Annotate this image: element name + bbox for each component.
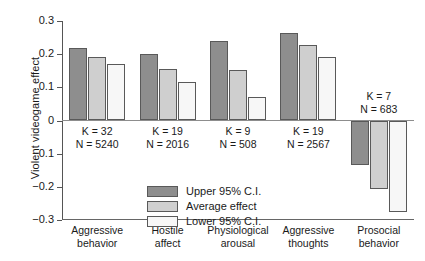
category-label-aggressive-thoughts: Aggressivethoughts xyxy=(273,224,343,249)
bar-prosocial-behavior-avg[interactable] xyxy=(370,121,388,190)
group-annotation-prosocial-behavior: K = 7N = 683 xyxy=(344,90,414,116)
y-tick-label: 0.3 xyxy=(39,14,54,26)
y-tick-label: 0.1 xyxy=(39,80,54,92)
group-annotation-hostile-affect: K = 19N = 2016 xyxy=(132,125,202,151)
annotation-n: N = 2567 xyxy=(273,138,343,151)
annotation-k: K = 9 xyxy=(203,125,273,138)
bar-chart: Violent videogame effect 0.30.20.10−0.1−… xyxy=(0,0,425,261)
legend-label-average: Average effect xyxy=(186,200,257,212)
group-annotation-aggressive-thoughts: K = 19N = 2567 xyxy=(273,125,343,151)
annotation-n: N = 5240 xyxy=(62,138,132,151)
bar-aggressive-thoughts-low[interactable] xyxy=(318,57,336,120)
bar-aggressive-behavior-up[interactable] xyxy=(69,48,87,121)
category-label-line2: affect xyxy=(132,237,202,250)
legend: Upper 95% C.I. Average effect Lower 95% … xyxy=(147,184,261,229)
group-annotation-physiological-arousal: K = 9N = 508 xyxy=(203,125,273,151)
bar-aggressive-behavior-avg[interactable] xyxy=(88,57,106,121)
category-label-line2: behavior xyxy=(344,237,414,250)
bar-group-aggressive-thoughts: K = 19N = 2567Aggressivethoughts xyxy=(273,21,343,220)
group-annotation-aggressive-behavior: K = 32N = 5240 xyxy=(62,125,132,151)
bar-aggressive-thoughts-up[interactable] xyxy=(280,33,298,121)
bar-group-aggressive-behavior: K = 32N = 5240Aggressivebehavior xyxy=(62,21,132,220)
annotation-k: K = 19 xyxy=(273,125,343,138)
legend-item-upper: Upper 95% C.I. xyxy=(147,184,261,198)
annotation-k: K = 19 xyxy=(132,125,202,138)
legend-swatch-average-icon xyxy=(147,201,178,212)
bars xyxy=(273,21,343,220)
bar-hostile-affect-low[interactable] xyxy=(178,82,196,120)
legend-swatch-lower-icon xyxy=(147,216,178,227)
y-tick-label: −0.1 xyxy=(32,147,54,159)
bar-hostile-affect-avg[interactable] xyxy=(159,69,177,120)
legend-item-lower: Lower 95% C.I. xyxy=(147,214,261,228)
y-tick-label: −0.3 xyxy=(32,213,54,225)
annotation-k: K = 7 xyxy=(344,90,414,103)
y-tick-label: 0.2 xyxy=(39,47,54,59)
bar-physiological-arousal-up[interactable] xyxy=(210,41,228,121)
annotation-n: N = 683 xyxy=(344,103,414,116)
legend-label-lower: Lower 95% C.I. xyxy=(186,215,261,227)
category-label-line2: thoughts xyxy=(273,237,343,250)
category-label-prosocial-behavior: Prosocialbehavior xyxy=(344,224,414,249)
plot-area: 0.30.20.10−0.1−0.2−0.3 K = 32N = 5240Agg… xyxy=(62,21,414,220)
annotation-k: K = 32 xyxy=(62,125,132,138)
bars xyxy=(62,21,132,220)
category-label-aggressive-behavior: Aggressivebehavior xyxy=(62,224,132,249)
bar-group-prosocial-behavior: K = 7N = 683Prosocialbehavior xyxy=(344,21,414,220)
y-tick-label: −0.2 xyxy=(32,180,54,192)
annotation-n: N = 508 xyxy=(203,138,273,151)
legend-item-average: Average effect xyxy=(147,199,261,213)
legend-swatch-upper-icon xyxy=(147,186,178,197)
category-label-line1: Aggressive xyxy=(62,224,132,237)
category-label-line1: Aggressive xyxy=(273,224,343,237)
category-label-line2: behavior xyxy=(62,237,132,250)
bar-aggressive-behavior-low[interactable] xyxy=(107,64,125,120)
y-tick-mark xyxy=(57,220,62,221)
bars xyxy=(344,21,414,220)
legend-label-upper: Upper 95% C.I. xyxy=(186,185,261,197)
category-label-line2: arousal xyxy=(203,237,273,250)
bar-prosocial-behavior-low[interactable] xyxy=(389,121,407,213)
bar-aggressive-thoughts-avg[interactable] xyxy=(299,45,317,121)
annotation-n: N = 2016 xyxy=(132,138,202,151)
y-tick-label: 0 xyxy=(48,114,54,126)
bar-physiological-arousal-low[interactable] xyxy=(248,97,266,121)
category-label-line1: Prosocial xyxy=(344,224,414,237)
bar-physiological-arousal-avg[interactable] xyxy=(229,70,247,121)
bar-prosocial-behavior-up[interactable] xyxy=(351,121,369,165)
bar-hostile-affect-up[interactable] xyxy=(140,54,158,121)
